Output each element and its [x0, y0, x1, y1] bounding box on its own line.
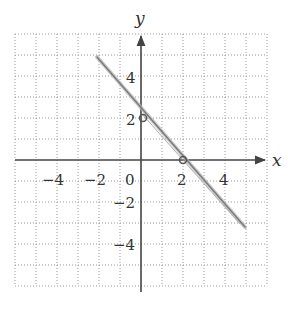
y-tick-label: 4	[126, 69, 136, 87]
x-tick-label: 2	[177, 171, 187, 189]
x-axis-label: x	[272, 150, 282, 170]
y-tick-label: −2	[113, 194, 135, 212]
y-axis-label: y	[134, 8, 145, 28]
y-tick-label: −4	[113, 236, 135, 254]
x-tick-label: −2	[84, 171, 106, 189]
x-tick-label: −4	[42, 171, 64, 189]
x-tick-label: 4	[219, 171, 229, 189]
x-tick-label: 0	[125, 171, 135, 189]
coordinate-plane: x y −4 −2 0 2 4 4 2 −2 −4	[0, 0, 288, 310]
y-tick-label: 2	[126, 111, 136, 129]
